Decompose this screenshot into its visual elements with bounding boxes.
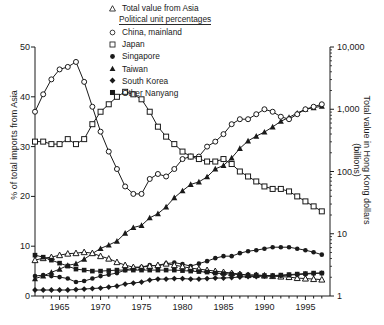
- y-tick-label-left: 20: [4, 191, 30, 201]
- legend-item-south-korea: South Korea: [106, 75, 211, 87]
- y-tick-label-right: 1,000: [337, 104, 379, 114]
- x-tick-label: 1975: [122, 302, 162, 312]
- legend-label-taiwan: Taiwan: [122, 65, 148, 73]
- legend-item-singapore: Singapore: [106, 51, 211, 63]
- triangle-up-filled-icon: [106, 65, 119, 72]
- legend-label-singapore: Singapore: [122, 52, 160, 60]
- y-tick-label-left: 0: [4, 291, 30, 301]
- legend-item-china: China, mainland: [106, 26, 211, 38]
- diamond-filled-icon: [106, 77, 119, 84]
- y-tick-label-left: 40: [4, 92, 30, 102]
- x-tick-label: 1995: [285, 302, 325, 312]
- x-tick-label: 1965: [40, 302, 80, 312]
- x-tick-label: 1980: [163, 302, 203, 312]
- square-open-icon: [106, 41, 119, 48]
- y-tick-label-right: 10,000: [337, 42, 379, 52]
- x-tick-label: 1970: [81, 302, 121, 312]
- legend-item-total-value: Total value from Asia: [106, 2, 211, 14]
- legend-header: Political unit percentages: [119, 15, 211, 25]
- legend-item-other-nanyang: Other Nanyang: [106, 87, 211, 99]
- circle-open-icon: [106, 29, 119, 36]
- y-tick-label-left: 10: [4, 241, 30, 251]
- y-tick-label-right: 100: [337, 167, 379, 177]
- y-tick-label-left: 30: [4, 142, 30, 152]
- legend-label-south-korea: South Korea: [122, 77, 168, 85]
- legend-label-china: China, mainland: [122, 28, 182, 36]
- y-tick-label-right: 1: [337, 291, 379, 301]
- legend-item-japan: Japan: [106, 38, 211, 50]
- x-tick-label: 1990: [244, 302, 284, 312]
- legend-label-japan: Japan: [122, 40, 145, 48]
- square-filled-icon: [106, 89, 119, 96]
- legend-item-taiwan: Taiwan: [106, 63, 211, 75]
- legend-label-total-value: Total value from Asia: [122, 4, 199, 12]
- triangle-up-open-icon: [106, 5, 119, 12]
- y-tick-label-left: 50: [4, 42, 30, 52]
- series-japan: [33, 89, 325, 214]
- legend-label-other-nanyang: Other Nanyang: [122, 89, 178, 97]
- chart-legend: Total value from Asia Political unit per…: [106, 2, 211, 99]
- y-tick-label-right: 10: [337, 229, 379, 239]
- x-tick-label: 1985: [203, 302, 243, 312]
- circle-filled-icon: [106, 53, 119, 60]
